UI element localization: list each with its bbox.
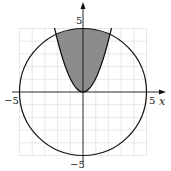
x-axis-arrow-icon (159, 90, 166, 95)
y-max-label: 5 (76, 15, 82, 26)
x-max-label: 5 (149, 95, 155, 106)
x-axis-label: x (159, 95, 166, 108)
x-min-label: −5 (4, 95, 19, 106)
y-axis-arrow-icon (81, 2, 86, 9)
diagram-canvas: −5 5 x 5 −5 (0, 0, 171, 171)
y-min-label: −5 (70, 159, 85, 170)
